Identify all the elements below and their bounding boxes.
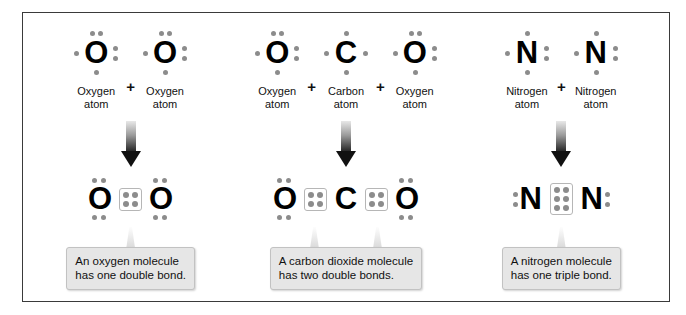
lewis-atom-oxygen: O — [69, 27, 123, 79]
shared-electron-dot — [554, 196, 560, 202]
electron-dot — [413, 70, 418, 75]
shared-electron-pair-box — [304, 188, 327, 211]
callout-oxygen: An oxygen molecule has one double bond. — [66, 247, 195, 290]
shared-electron-pair-box — [119, 188, 142, 211]
electron-dot — [344, 31, 349, 36]
shared-electron-dot — [369, 192, 375, 198]
electron-dot — [393, 51, 398, 56]
shared-electron-dot — [554, 205, 560, 211]
atom-symbol: O — [141, 173, 181, 225]
electron-dot — [286, 215, 291, 220]
shared-electron-dot — [563, 196, 569, 202]
lewis-atom-oxygen: O — [388, 27, 442, 79]
reaction-arrow-icon — [121, 121, 141, 167]
lewis-atom-nitrogen: N — [500, 27, 554, 79]
callout-wrap-oxygen: An oxygen molecule has one double bond. — [23, 247, 238, 290]
electron-dot — [408, 178, 413, 183]
callout-carbon-dioxide: A carbon dioxide molecule has two double… — [270, 247, 422, 290]
electron-dot — [286, 178, 291, 183]
electron-dot — [324, 51, 329, 56]
electron-dot — [344, 70, 349, 75]
electron-dot — [513, 192, 518, 197]
panel-nitrogen: N Nitrogen atom + N — [454, 13, 669, 301]
plus-sign: + — [126, 27, 135, 94]
electron-dot — [594, 31, 599, 36]
shared-electron-pair-box — [550, 183, 573, 215]
panel-oxygen: O Oxygen atom + O — [23, 13, 238, 301]
shared-electron-pair-box — [365, 188, 388, 211]
reaction-arrow-icon — [551, 121, 571, 167]
shared-electron-dot — [378, 192, 384, 198]
electron-dot — [544, 46, 549, 51]
callout-connector — [310, 227, 319, 249]
atom-symbol: O — [387, 173, 427, 225]
electron-dot — [409, 31, 414, 36]
molecule-nitrogen: N N — [511, 173, 612, 225]
molecule-atom: O — [141, 173, 181, 225]
reactants-row-nitrogen: N Nitrogen atom + N — [500, 27, 623, 111]
electron-dot — [432, 56, 437, 61]
callout-nitrogen: A nitrogen molecule has one triple bond. — [502, 247, 621, 290]
electron-dot — [613, 56, 618, 61]
shared-electron-dot — [123, 192, 129, 198]
electron-dot — [525, 31, 530, 36]
reaction-arrow-icon — [336, 121, 356, 167]
plus-sign: + — [557, 27, 566, 94]
electron-dot — [605, 192, 610, 197]
reactant-oxygen-1: O Oxygen atom — [69, 27, 123, 111]
arrow-head — [336, 151, 356, 167]
molecule-atom: C — [326, 173, 366, 225]
shared-electron-dot — [132, 201, 138, 207]
atom-symbol: C — [326, 173, 366, 225]
callout-wrap-carbon-dioxide: A carbon dioxide molecule has two double… — [238, 247, 453, 290]
atom-symbol: N — [572, 173, 612, 225]
reactant-nitrogen-2: N Nitrogen atom — [569, 27, 623, 111]
reactant-oxygen-2: O Oxygen atom — [388, 27, 442, 111]
electron-dot — [417, 31, 422, 36]
arrow-shaft — [126, 121, 136, 153]
shared-electron-dot — [308, 192, 314, 198]
molecule-atom: N — [511, 173, 551, 225]
plus-sign: + — [376, 27, 385, 94]
shared-electron-dot — [563, 205, 569, 211]
callout-wrap-nitrogen: A nitrogen molecule has one triple bond. — [454, 247, 669, 290]
shared-electron-dot — [308, 201, 314, 207]
electron-dot — [605, 202, 610, 207]
shared-electron-dot — [554, 187, 560, 193]
molecule-atom: N — [572, 173, 612, 225]
lewis-atom-carbon: C — [319, 27, 373, 79]
atom-label: Oxygen atom — [77, 85, 115, 111]
atom-symbol: O — [80, 173, 120, 225]
atom-label: Oxygen atom — [258, 85, 296, 111]
arrow-shaft — [341, 121, 351, 153]
shared-electron-dot — [378, 201, 384, 207]
atom-symbol: N — [511, 173, 551, 225]
atom-symbol: O — [265, 173, 305, 225]
reactant-carbon: C Carbon atom — [319, 27, 373, 111]
electron-dot — [505, 51, 510, 56]
panels-container: O Oxygen atom + O — [23, 13, 669, 301]
reactant-nitrogen-1: N Nitrogen atom — [500, 27, 554, 111]
callout-connector — [126, 227, 135, 249]
reactant-oxygen-1: O Oxygen atom — [250, 27, 304, 111]
lewis-atom-oxygen: O — [250, 27, 304, 79]
electron-dot — [544, 56, 549, 61]
shared-electron-dot — [123, 201, 129, 207]
shared-electron-dot — [317, 201, 323, 207]
shared-electron-dot — [317, 192, 323, 198]
molecule-oxygen: O O — [80, 173, 181, 225]
panel-carbon-dioxide: O Oxygen atom + C — [238, 13, 453, 301]
molecule-carbon-dioxide: O C — [265, 173, 427, 225]
atom-label: Oxygen atom — [146, 85, 184, 111]
electron-dot — [408, 215, 413, 220]
molecule-atom: O — [387, 173, 427, 225]
lewis-atom-nitrogen: N — [569, 27, 623, 79]
reactants-row-carbon-dioxide: O Oxygen atom + C — [250, 27, 442, 111]
shared-electron-dot — [563, 187, 569, 193]
electron-dot — [277, 215, 282, 220]
electron-dot — [613, 46, 618, 51]
electron-dot — [363, 51, 368, 56]
electron-dot — [574, 51, 579, 56]
electron-dot — [594, 70, 599, 75]
plus-sign: + — [307, 27, 316, 94]
